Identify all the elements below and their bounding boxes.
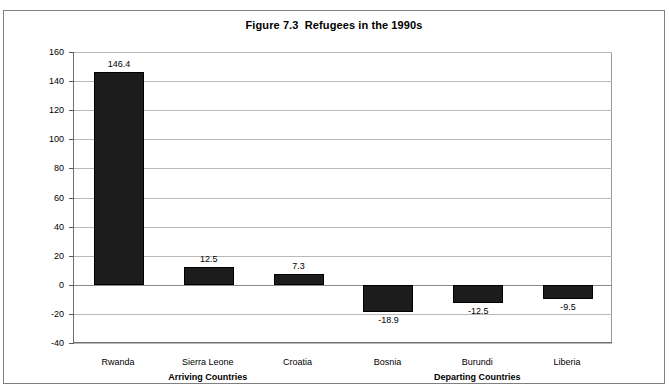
bar [184,267,234,285]
y-axis-tick-label: 120 [4,106,64,115]
plot-area: 146.412.57.3-18.9-12.5-9.5 [73,52,612,343]
y-axis-tick-label: 100 [4,135,64,144]
chart-frame: Figure 7.3 Refugees in the 1990s 146.412… [3,10,665,384]
y-axis-tick-label: -40 [4,339,64,348]
x-axis-category-label: Sierra Leone [163,358,253,367]
y-axis-tick-label: 160 [4,48,64,57]
bar-value-label: 7.3 [254,262,344,271]
gridline [74,256,612,257]
y-axis-tick-mark [69,227,74,228]
y-axis-tick-label: 140 [4,77,64,86]
y-axis-tick-mark [69,81,74,82]
bar [363,285,413,312]
gridline [74,139,612,140]
x-axis-category-label: Liberia [522,358,612,367]
gridline [74,110,612,111]
x-axis-category-label: Croatia [253,358,343,367]
gridline [74,168,612,169]
y-axis-tick-label: 0 [4,280,64,289]
y-axis-tick-mark [69,110,74,111]
gridline [74,343,612,344]
bar [274,274,324,285]
y-axis-tick-mark [69,343,74,344]
y-axis-tick-label: 60 [4,193,64,202]
y-axis-tick-label: 20 [4,251,64,260]
bar-value-label: -9.5 [523,303,613,312]
x-axis-group-label: Departing Countries [343,372,613,382]
x-axis-category-label: Burundi [432,358,522,367]
y-axis-tick-mark [69,256,74,257]
y-axis-tick-mark [69,198,74,199]
chart-title: Figure 7.3 Refugees in the 1990s [4,19,664,31]
x-axis-category-label: Bosnia [343,358,433,367]
y-axis-tick-label: 40 [4,222,64,231]
bar-value-label: 12.5 [164,255,254,264]
gridline [74,81,612,82]
x-axis-category-label: Rwanda [73,358,163,367]
y-axis-tick-mark [69,314,74,315]
y-axis-tick-mark [69,139,74,140]
gridline [74,285,612,286]
y-axis-tick-mark [69,285,74,286]
gridline [74,198,612,199]
bar-value-label: 146.4 [74,60,164,69]
bar [543,285,593,299]
bar-value-label: -18.9 [343,316,433,325]
gridline [74,227,612,228]
gridline [74,314,612,315]
y-axis-tick-label: 80 [4,164,64,173]
bar-value-label: -12.5 [433,307,523,316]
x-axis-group-label: Arriving Countries [73,372,343,382]
y-axis-tick-mark [69,52,74,53]
y-axis-tick-mark [69,168,74,169]
y-axis-tick-label: -20 [4,309,64,318]
gridline [74,52,612,53]
bar [94,72,144,285]
bar [453,285,503,303]
